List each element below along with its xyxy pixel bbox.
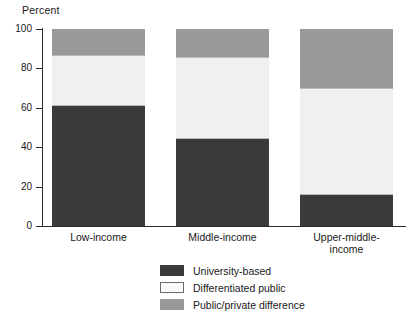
legend-item-differentiated-public: Differentiated public [160, 279, 305, 296]
bar-segment-public-private-difference [52, 29, 145, 55]
legend-label-university-based: University-based [193, 265, 271, 277]
legend-label-public-private-difference: Public/private difference [193, 299, 305, 311]
legend-item-public-private-difference: Public/private difference [160, 296, 305, 313]
legend-swatch-icon-differentiated-public [160, 282, 184, 293]
bar-segment-public-private-difference [300, 29, 393, 88]
x-label-line-2: income [300, 244, 393, 256]
x-label-line-1: Upper-middle- [300, 232, 393, 244]
x-label-line-1: Middle-income [176, 232, 269, 244]
x-label-upper-middle-income: Upper-middle- income [300, 232, 393, 255]
chart-legend: University-based Differentiated public P… [160, 262, 305, 313]
y-tick-0 [36, 226, 42, 227]
y-tick-label-60: 60 [0, 103, 32, 113]
legend-item-university-based: University-based [160, 262, 305, 279]
bar-middle-income [176, 29, 269, 226]
y-tick-label-0: 0 [0, 221, 32, 231]
bar-upper-middle-income [300, 29, 393, 226]
y-tick-label-80: 80 [0, 63, 32, 73]
x-label-low-income: Low-income [52, 232, 145, 244]
bar-segment-university-based [52, 106, 145, 226]
y-tick-label-100: 100 [0, 24, 32, 34]
bar-segment-differentiated-public [176, 57, 269, 140]
x-axis-line [42, 226, 406, 227]
y-tick-label-20: 20 [0, 182, 32, 192]
legend-swatch-icon-public-private-difference [160, 299, 184, 310]
bar-segment-differentiated-public [300, 88, 393, 194]
x-label-middle-income: Middle-income [176, 232, 269, 244]
legend-swatch-icon-university-based [160, 265, 184, 276]
plot-area [42, 29, 405, 226]
y-axis-title: Percent [22, 4, 60, 16]
bar-segment-university-based [176, 139, 269, 226]
y-tick-label-40: 40 [0, 142, 32, 152]
bar-segment-differentiated-public [52, 55, 145, 106]
x-label-line-1: Low-income [52, 232, 145, 244]
bar-low-income [52, 29, 145, 226]
bar-segment-university-based [300, 195, 393, 227]
stacked-bar-chart: Percent 100 80 60 40 20 0 [0, 0, 416, 326]
bar-segment-public-private-difference [176, 29, 269, 57]
legend-label-differentiated-public: Differentiated public [193, 282, 286, 294]
